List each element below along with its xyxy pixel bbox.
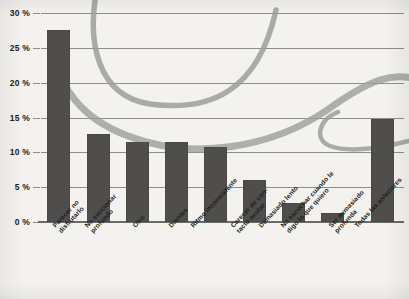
bar-2[interactable] bbox=[126, 142, 149, 222]
ytick-label: 30 % bbox=[10, 8, 30, 18]
x-axis-labels: Parecer no disfrutarlo No succionar prof… bbox=[41, 224, 409, 299]
tick-mark bbox=[33, 83, 40, 84]
tick-mark bbox=[33, 152, 40, 153]
ytick-label: 20 % bbox=[10, 78, 30, 88]
tick-mark bbox=[33, 13, 40, 14]
bar-0[interactable] bbox=[47, 30, 70, 222]
ytick-label: 25 % bbox=[10, 43, 30, 53]
tick-mark bbox=[33, 48, 40, 49]
ytick-label: 0 % bbox=[15, 217, 30, 227]
tick-mark bbox=[33, 187, 40, 188]
bar-chart: 30 % 25 % 20 % 15 % 10 % 5 % bbox=[0, 0, 409, 299]
ytick-label: 15 % bbox=[10, 113, 30, 123]
ytick-label: 10 % bbox=[10, 147, 30, 157]
tick-mark bbox=[33, 118, 40, 119]
ytick-label: 5 % bbox=[15, 182, 30, 192]
